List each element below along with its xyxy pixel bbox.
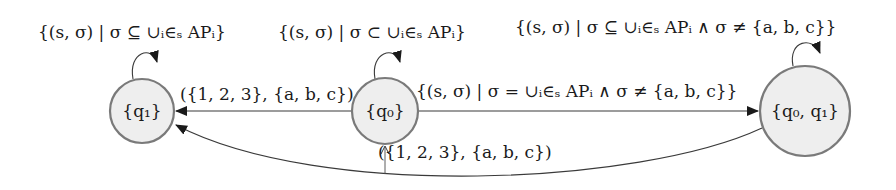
self-loop-q0q1 xyxy=(792,43,820,66)
label-self-loop-q0q1: {(s, σ) | σ ⊆ ∪ᵢ∈ₛ APᵢ ∧ σ ≠ {a, b, c}} xyxy=(515,17,836,37)
label-self-loop-q1: {(s, σ) | σ ⊆ ∪ᵢ∈ₛ APᵢ} xyxy=(38,22,226,42)
self-loop-q0 xyxy=(374,53,400,79)
label-q0-to-q1: ({1, 2, 3}, {a, b, c}) xyxy=(180,84,354,104)
state-q0q1-label: {q₀, q₁} xyxy=(771,101,839,121)
state-q0: {q₀} xyxy=(352,78,418,144)
automaton-diagram: {q₁} {q₀} {q₀, q₁} {(s, σ) | σ ⊆ ∪ᵢ∈ₛ AP… xyxy=(0,0,896,190)
state-q1: {q₁} xyxy=(110,79,174,143)
label-q0-to-q0q1: {(s, σ) | σ = ∪ᵢ∈ₛ APᵢ ∧ σ ≠ {a, b, c}} xyxy=(416,81,737,101)
state-q0-label: {q₀} xyxy=(365,101,404,121)
state-q1-label: {q₁} xyxy=(122,101,161,121)
label-self-loop-q0: {(s, σ) | σ ⊂ ∪ᵢ∈ₛ APᵢ} xyxy=(278,22,466,42)
label-q0q1-to-q1: ({1, 2, 3}, {a, b, c}) xyxy=(378,142,552,162)
state-q0q1: {q₀, q₁} xyxy=(760,66,850,156)
self-loop-q1 xyxy=(132,53,157,79)
